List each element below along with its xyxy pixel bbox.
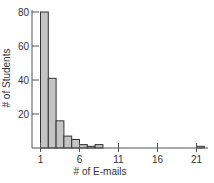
histogram-bar (41, 12, 49, 148)
histogram-bar (64, 136, 72, 148)
y-tick-label: 80 (18, 7, 30, 18)
y-axis-ticks: 20406080 (18, 7, 39, 120)
y-axis-label: # of Students (1, 49, 12, 108)
histogram-bar (95, 145, 103, 148)
histogram-bar (72, 140, 80, 149)
histogram-chart: 20406080 16111621 # of E-mails # of Stud… (0, 0, 214, 183)
x-tick-label: 1 (38, 154, 44, 165)
x-axis-label: # of E-mails (74, 166, 127, 177)
histogram-bar (48, 78, 56, 148)
y-tick-label: 20 (18, 109, 30, 120)
x-tick-label: 21 (191, 154, 203, 165)
x-tick-label: 16 (152, 154, 164, 165)
histogram-bar (80, 145, 88, 148)
x-tick-label: 6 (77, 154, 83, 165)
y-tick-label: 60 (18, 41, 30, 52)
x-tick-label: 11 (113, 154, 124, 165)
histogram-bars (41, 12, 205, 148)
y-tick-label: 40 (18, 75, 30, 86)
histogram-bar (56, 121, 64, 148)
